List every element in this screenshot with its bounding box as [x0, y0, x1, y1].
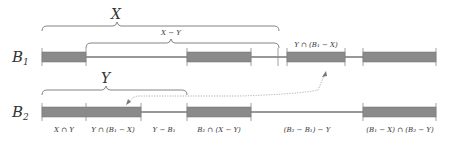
b2-block-1	[42, 107, 141, 117]
b1-block-2	[187, 52, 251, 62]
row-b2	[42, 103, 436, 121]
label-x-cap-y: X ∩ Y	[53, 126, 75, 134]
brace-y	[42, 86, 187, 95]
dotted-connector-arrow	[126, 71, 327, 105]
label-b2-minus-b1-minus-y: (B₂ − B₁) − Y	[284, 126, 332, 134]
row-label-b1: B1	[11, 48, 29, 67]
svg-text:B2: B2	[11, 103, 29, 122]
label-b2-cap-x-minus-y: B₂ ∩ (X − Y)	[196, 126, 241, 134]
arrowhead-up-icon	[322, 71, 327, 77]
b2-segment-labels: X ∩ Y Y ∩ (B₁ − X) Y − B₁ B₂ ∩ (X − Y) (…	[53, 126, 434, 134]
label-y-cap-b1-minus-x-top: Y ∩ (B₁ − X)	[294, 41, 338, 49]
brace-x-minus-y	[86, 39, 279, 48]
brace-label-y: Y	[101, 70, 112, 86]
b2-block-2	[187, 107, 251, 117]
b1-block-4	[363, 52, 436, 62]
row-b1	[42, 48, 436, 66]
b2-block-3	[363, 107, 436, 117]
row-label-b2: B2	[11, 103, 29, 122]
brace-label-x: X	[110, 6, 122, 22]
b1-block-1	[42, 52, 86, 62]
arrowhead-down-icon	[126, 99, 131, 105]
label-y-minus-b1: Y − B₁	[153, 126, 176, 134]
svg-text:B1: B1	[11, 48, 29, 67]
label-y-cap-b1-minus-x: Y ∩ (B₁ − X)	[91, 126, 135, 134]
set-partition-diagram: B1 B2 X X − Y Y ∩ (B₁ − X)	[0, 0, 457, 142]
label-b1-minus-x-cap-b2-minus-y: (B₁ − X) ∩ (B₂ − Y)	[366, 126, 434, 134]
b1-block-3	[287, 52, 345, 62]
brace-label-x-minus-y: X − Y	[160, 29, 182, 37]
